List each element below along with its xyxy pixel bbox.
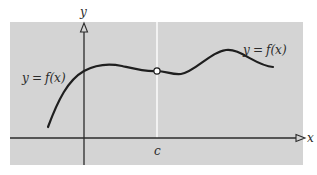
y-axis-label: y (79, 5, 87, 19)
point-c-label: c (154, 144, 161, 158)
svg-text:y: y (242, 43, 250, 57)
function-graph-figure: y x c y = f(x) y = f(x) (0, 0, 317, 175)
svg-text:y: y (21, 71, 29, 85)
x-axis-label: x (307, 131, 314, 145)
removable-discontinuity-hole (154, 68, 160, 74)
svg-text:=: = (32, 71, 42, 85)
svg-text:f(x): f(x) (44, 71, 66, 85)
svg-text:=: = (253, 43, 263, 57)
svg-text:f(x): f(x) (265, 43, 287, 57)
